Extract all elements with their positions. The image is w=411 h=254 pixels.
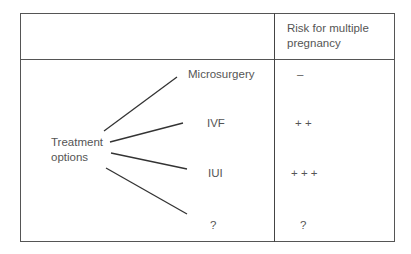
option-microsurgery: Microsurgery: [188, 67, 254, 82]
option-iui: IUI: [208, 166, 223, 181]
risk-iui: + + +: [291, 166, 318, 181]
risk-microsurgery: –: [297, 67, 303, 82]
option-unknown: ?: [210, 218, 216, 233]
root-label-treatment-options: Treatment options: [51, 135, 111, 165]
branch-line-ivf: [110, 123, 183, 142]
branch-line-microsurgery: [104, 77, 177, 131]
branch-line-unknown: [106, 168, 187, 214]
branch-lines: [0, 0, 411, 254]
branch-line-iui: [111, 153, 187, 169]
risk-ivf: + +: [295, 116, 312, 131]
option-ivf: IVF: [207, 116, 225, 131]
risk-unknown: ?: [300, 218, 306, 233]
